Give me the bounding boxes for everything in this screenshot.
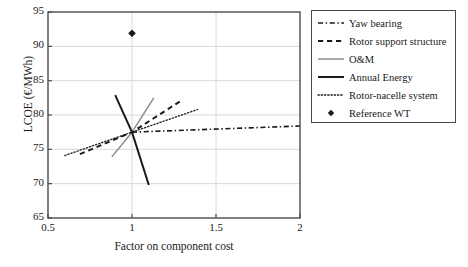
legend-item: O&M <box>316 50 455 68</box>
thick-black-line-key <box>316 68 346 86</box>
x-axis-label: Factor on component cost <box>48 240 300 252</box>
legend-item: Reference WT <box>316 104 455 122</box>
legend-item: Yaw bearing <box>316 14 455 32</box>
legend-item: Rotor-nacelle system <box>316 86 455 104</box>
dashed-line-key <box>316 32 346 50</box>
chart-figure: LCOE (€/MWh) Factor on component cost 65… <box>0 0 468 267</box>
y-tick-label: 90 <box>18 38 44 50</box>
legend-label: Rotor support structure <box>349 33 446 50</box>
x-tick-label: 0.5 <box>28 221 68 233</box>
chart-legend: Yaw bearingRotor support structureO&MAnn… <box>311 10 456 123</box>
x-tick-label: 2 <box>280 221 320 233</box>
legend-label: Reference WT <box>349 105 410 122</box>
x-tick-label: 1 <box>112 221 152 233</box>
y-tick-label: 85 <box>18 73 44 85</box>
y-tick-label: 95 <box>18 4 44 16</box>
legend-label: Yaw bearing <box>349 15 402 32</box>
y-tick-label: 75 <box>18 141 44 153</box>
reference-wt-marker <box>129 30 136 37</box>
dotted-line-key <box>316 86 346 104</box>
dashdot-line-key <box>316 14 346 32</box>
legend-item: Rotor support structure <box>316 32 455 50</box>
thin-gray-line-key <box>316 50 346 68</box>
legend-label: O&M <box>349 51 374 68</box>
x-tick-label: 1.5 <box>196 221 236 233</box>
legend-label: Annual Energy <box>349 69 413 86</box>
y-tick-label: 80 <box>18 107 44 119</box>
series-line-rotor-support-structure <box>80 100 182 154</box>
diamond-marker-key <box>316 104 346 122</box>
y-tick-label: 70 <box>18 176 44 188</box>
legend-label: Rotor-nacelle system <box>349 87 438 104</box>
legend-item: Annual Energy <box>316 68 455 86</box>
